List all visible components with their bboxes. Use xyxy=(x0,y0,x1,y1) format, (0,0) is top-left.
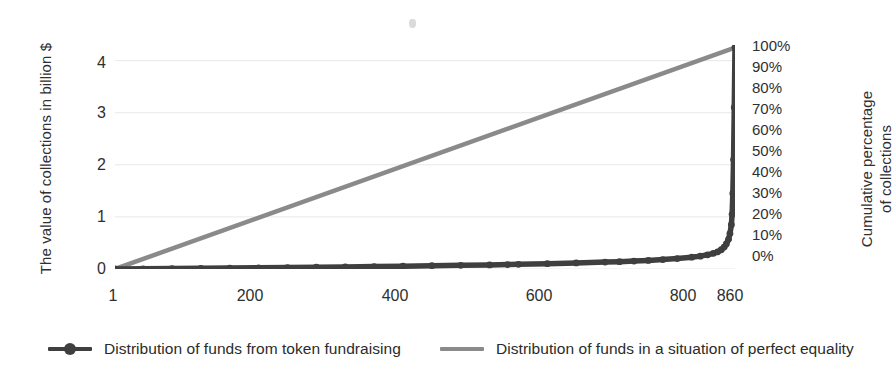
data-point xyxy=(704,251,711,258)
data-point xyxy=(616,258,623,265)
chart-legend: Distribution of funds from token fundrai… xyxy=(0,334,886,368)
y-axis-left-tick-0: 0 xyxy=(72,261,106,277)
y-axis-left-tick-4: 4 xyxy=(72,55,106,71)
data-point xyxy=(725,236,732,243)
data-point xyxy=(504,261,511,268)
data-point xyxy=(645,257,652,264)
series-line-1 xyxy=(115,48,735,269)
legend-item-token-fundraising[interactable]: Distribution of funds from token fundrai… xyxy=(48,338,401,360)
y-axis-right-tick-50: 50% xyxy=(752,143,812,158)
series-layer xyxy=(115,48,735,269)
legend-swatch-line-icon xyxy=(440,341,484,357)
y-axis-right-tick-80: 80% xyxy=(752,80,812,95)
y-axis-left-tick-3: 3 xyxy=(72,105,106,121)
data-point xyxy=(428,262,435,269)
y-axis-right-tick-100: 100% xyxy=(752,38,812,53)
plot-svg xyxy=(115,45,735,269)
y-axis-right-tick-0: 0% xyxy=(752,248,812,263)
y-axis-right-tick-40: 40% xyxy=(752,164,812,179)
plot-area xyxy=(115,45,735,269)
data-point xyxy=(457,262,464,269)
data-point xyxy=(602,259,609,266)
y-axis-right-title-line1: Cumulative percentage xyxy=(858,91,875,247)
data-point xyxy=(197,265,204,269)
y-axis-right-tick-30: 30% xyxy=(752,185,812,200)
y-axis-right-tick-60: 60% xyxy=(752,122,812,137)
legend-label-token-fundraising: Distribution of funds from token fundrai… xyxy=(104,340,401,358)
data-point xyxy=(140,265,147,269)
data-point xyxy=(515,261,522,268)
data-point xyxy=(688,254,695,261)
x-axis-tick-400: 400 xyxy=(365,288,425,304)
y-axis-left-tick-1: 1 xyxy=(72,209,106,225)
scan-artifact xyxy=(409,19,416,28)
data-point xyxy=(169,265,176,269)
x-axis-tick-860: 860 xyxy=(700,288,760,304)
y-axis-right-title-line2: of collections xyxy=(877,125,894,213)
data-point xyxy=(659,256,666,263)
data-point xyxy=(727,230,734,237)
y-axis-left-title: The value of collections in billion $ xyxy=(37,19,54,299)
y-axis-right-tick-90: 90% xyxy=(752,59,812,74)
data-point xyxy=(728,221,735,228)
x-axis-tick-600: 600 xyxy=(509,288,569,304)
legend-swatch-line-marker-icon xyxy=(48,341,92,357)
data-point xyxy=(573,260,580,267)
legend-item-perfect-equality[interactable]: Distribution of funds in a situation of … xyxy=(440,338,854,360)
x-axis-tick-200: 200 xyxy=(220,288,280,304)
y-axis-right-tick-10: 10% xyxy=(752,227,812,242)
legend-label-perfect-equality: Distribution of funds in a situation of … xyxy=(496,340,854,358)
y-axis-right-tick-20: 20% xyxy=(752,206,812,221)
data-point xyxy=(697,253,704,260)
y-axis-right-title: Cumulative percentage of collections xyxy=(857,29,895,309)
y-axis-left-tick-2: 2 xyxy=(72,157,106,173)
data-point xyxy=(631,258,638,265)
data-point xyxy=(544,260,551,267)
x-axis-tick-1: 1 xyxy=(83,288,143,304)
data-point xyxy=(674,255,681,262)
data-point xyxy=(486,261,493,268)
y-axis-right-tick-70: 70% xyxy=(752,101,812,116)
